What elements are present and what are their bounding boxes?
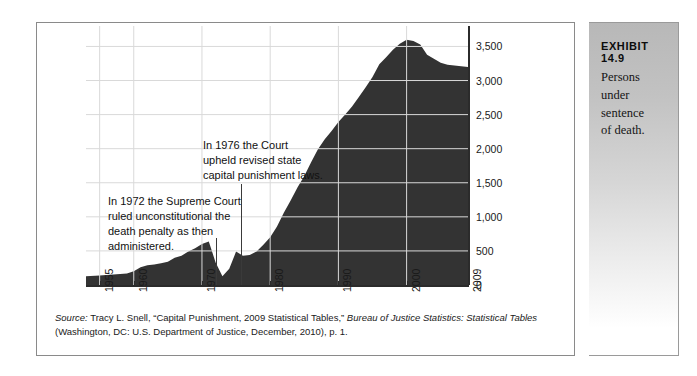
annotation-1972-text: In 1972 the Supreme Court ruled unconsti… <box>108 194 241 253</box>
y-tick-label: 500 <box>476 246 494 257</box>
x-tick-mark <box>134 281 135 286</box>
x-tick-mark <box>270 281 271 286</box>
exhibit-label-inner: EXHIBIT 14.9 Persons under sentence of d… <box>589 23 678 140</box>
source-text-b: (Washington, DC: U.S. Department of Just… <box>55 326 348 337</box>
exhibit-label-panel: EXHIBIT 14.9 Persons under sentence of d… <box>589 22 679 356</box>
exhibit-number: EXHIBIT 14.9 <box>601 40 668 64</box>
y-tick-label: 2,500 <box>476 109 502 120</box>
x-tick-label: 1960 <box>138 269 149 292</box>
chart-area: 05001,0001,5002,0002,5003,0003,500 19551… <box>86 26 518 288</box>
y-tick-label: 1,500 <box>476 178 502 189</box>
x-tick-mark <box>338 281 339 286</box>
y-axis-line <box>468 26 470 285</box>
source-text-a: Tracy L. Snell, “Capital Punishment, 200… <box>88 312 347 323</box>
source-label: Source: <box>55 312 88 323</box>
exhibit-frame: 05001,0001,5002,0002,5003,0003,500 19551… <box>36 22 575 356</box>
exhibit-caption: Persons under sentence of death. <box>601 69 668 140</box>
y-tick-label: 2,000 <box>476 143 502 154</box>
annotation-1972-leader-line <box>216 238 217 285</box>
source-note: Source: Tracy L. Snell, “Capital Punishm… <box>55 311 555 340</box>
x-tick-label: 1970 <box>206 269 217 292</box>
x-tick-label: 1980 <box>274 269 285 292</box>
x-tick-mark <box>407 281 408 286</box>
x-tick-label: 1955 <box>104 269 115 292</box>
x-tick-label: 2009 <box>472 269 483 292</box>
x-tick-label: 2000 <box>411 269 422 292</box>
y-tick-label: 3,000 <box>476 75 502 86</box>
annotation-1976-text: In 1976 the Court upheld revised state c… <box>203 138 323 183</box>
annotation-1976-leader-line <box>241 184 242 285</box>
source-publication: Bureau of Justice Statistics: Statistica… <box>347 312 537 323</box>
y-tick-label: 1,000 <box>476 212 502 223</box>
y-tick-label: 3,500 <box>476 41 502 52</box>
x-tick-mark <box>100 281 101 286</box>
x-tick-mark <box>468 281 469 286</box>
x-tick-mark <box>202 281 203 286</box>
x-tick-label: 1990 <box>342 269 353 292</box>
